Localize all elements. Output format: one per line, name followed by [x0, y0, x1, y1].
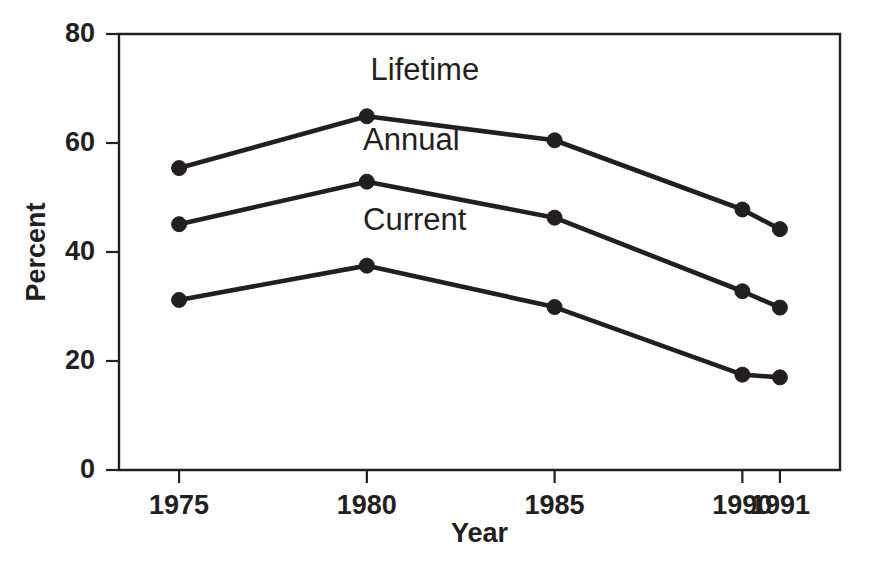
series-label-current: Current — [363, 202, 467, 237]
data-point-marker — [547, 133, 562, 148]
y-tick-label: 80 — [65, 18, 95, 48]
data-point-marker — [547, 210, 562, 225]
data-point-marker — [359, 174, 374, 189]
y-tick-label: 60 — [65, 127, 95, 157]
data-point-marker — [547, 300, 562, 315]
data-point-marker — [735, 284, 750, 299]
series-inline-labels: LifetimeAnnualCurrent — [363, 52, 479, 236]
data-point-marker — [772, 222, 787, 237]
x-tick-label: 1975 — [149, 490, 209, 520]
data-point-marker — [172, 292, 187, 307]
data-point-marker — [772, 300, 787, 315]
data-point-marker — [735, 367, 750, 382]
series-line — [179, 266, 780, 378]
data-point-marker — [172, 161, 187, 176]
x-axis-title: Year — [451, 518, 509, 548]
x-tick-label: 1991 — [750, 490, 810, 520]
plot-frame — [119, 34, 840, 470]
plot-border — [119, 34, 840, 470]
data-point-marker — [772, 370, 787, 385]
x-axis-tick-labels: 19751980198519901991 — [149, 490, 810, 520]
line-chart: 020406080 19751980198519901991 LifetimeA… — [0, 0, 893, 567]
data-point-marker — [359, 258, 374, 273]
chart-figure: 020406080 19751980198519901991 LifetimeA… — [0, 0, 893, 567]
series-annual — [172, 174, 788, 315]
y-tick-label: 40 — [65, 236, 95, 266]
y-tick-label: 0 — [80, 454, 95, 484]
x-tick-label: 1980 — [337, 490, 397, 520]
x-tick-label: 1985 — [525, 490, 585, 520]
data-series-group — [172, 109, 788, 385]
data-point-marker — [172, 217, 187, 232]
series-label-annual: Annual — [363, 122, 460, 157]
y-axis-tick-labels: 020406080 — [65, 18, 95, 484]
series-label-lifetime: Lifetime — [371, 52, 480, 87]
series-lifetime — [172, 109, 788, 237]
y-tick-label: 20 — [65, 345, 95, 375]
y-axis-title: Percent — [21, 202, 51, 301]
series-current — [172, 258, 788, 385]
series-line — [179, 116, 780, 229]
axis-ticks — [106, 34, 780, 483]
data-point-marker — [735, 202, 750, 217]
